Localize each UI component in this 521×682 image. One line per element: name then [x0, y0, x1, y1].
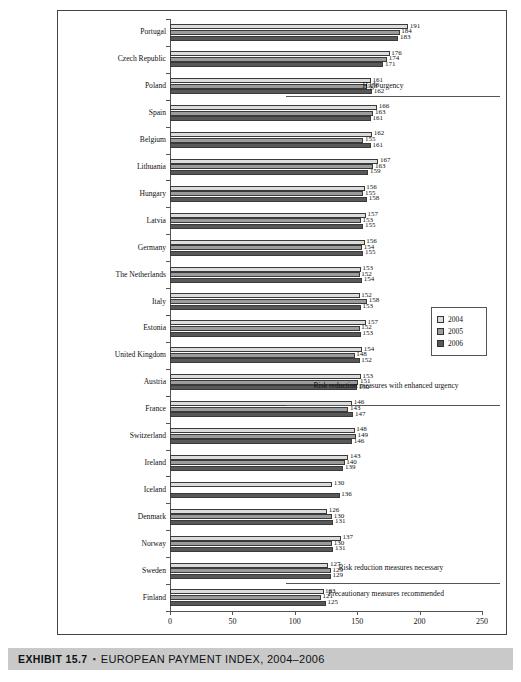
x-axis-tick — [295, 611, 296, 615]
bar-value-label: 161 — [372, 143, 383, 148]
bar-2006 — [170, 251, 363, 256]
bar-2006 — [170, 305, 361, 310]
bar-value-label: 139 — [345, 465, 356, 470]
bar-2006 — [170, 358, 360, 363]
category-label: Portugal — [58, 27, 166, 36]
chart-row: Norway137130131 — [170, 530, 482, 557]
bar-2004 — [170, 428, 355, 433]
bar-2005 — [170, 57, 387, 62]
bar-2006 — [170, 601, 326, 606]
category-label: Sweden — [58, 566, 166, 575]
bar-value-label: 131 — [335, 546, 346, 551]
y-axis-tick — [166, 557, 170, 558]
bar-value-label: 146 — [354, 439, 365, 444]
bar-2005 — [170, 326, 360, 331]
x-axis-tick-label: 0 — [168, 617, 172, 626]
bar-2006 — [170, 520, 333, 525]
bar-value-label: 153 — [362, 331, 373, 336]
chart-row: Denmark126130131 — [170, 503, 482, 530]
category-label: Hungary — [58, 189, 166, 198]
bar-value-label: 158 — [369, 196, 380, 201]
exhibit-number: EXHIBIT 15.7 — [18, 653, 88, 665]
y-axis-tick — [166, 234, 170, 235]
legend-item-2004: 2004 — [437, 315, 482, 324]
bar-2004 — [170, 455, 348, 460]
legend-swatch-icon — [437, 340, 444, 347]
bar-2006 — [170, 197, 367, 202]
y-axis-tick — [166, 288, 170, 289]
y-axis-tick — [166, 423, 170, 424]
category-label: Estonia — [58, 323, 166, 332]
y-axis-tick — [166, 450, 170, 451]
y-axis-tick — [166, 476, 170, 477]
bar-value-label: 147 — [355, 412, 366, 417]
annotation-precautionary: Precautionary measures recommended — [306, 589, 466, 598]
legend-label: 2005 — [448, 327, 463, 336]
chart-row: Ireland143140139 — [170, 450, 482, 477]
category-label: Finland — [58, 593, 166, 602]
category-label: United Kingdom — [58, 350, 166, 359]
annotation-rule-3 — [286, 583, 500, 584]
y-axis-tick — [166, 19, 170, 20]
legend-label: 2004 — [448, 315, 463, 324]
y-axis-tick — [166, 180, 170, 181]
bar-2005 — [170, 514, 332, 519]
bar-2005 — [170, 299, 367, 304]
y-axis-tick — [166, 46, 170, 47]
bar-2006 — [170, 170, 368, 175]
bar-value-label: 136 — [341, 492, 352, 497]
x-axis-tick-label: 250 — [476, 617, 488, 626]
category-label: Ireland — [58, 458, 166, 467]
category-label: Iceland — [58, 485, 166, 494]
x-axis-line — [170, 611, 482, 612]
chart-frame: Portugal191184183Czech Republic176174171… — [57, 10, 507, 635]
legend: 200420052006 — [431, 307, 487, 356]
y-axis-tick — [166, 127, 170, 128]
bar-2006 — [170, 143, 371, 148]
bar-value-label: 131 — [335, 519, 346, 524]
bar-2005 — [170, 460, 345, 465]
annotation-risk-necessary: Risk reduction measures necessary — [306, 563, 476, 572]
bar-2005 — [170, 164, 373, 169]
bar-2004 — [170, 132, 372, 137]
bar-2006 — [170, 547, 333, 552]
x-axis-tick — [482, 611, 483, 615]
bar-2004 — [170, 240, 365, 245]
y-axis-tick — [166, 584, 170, 585]
y-axis-tick — [166, 503, 170, 504]
bar-2006 — [170, 412, 353, 417]
bar-value-label: 137 — [342, 535, 353, 540]
bar-2005 — [170, 434, 356, 439]
x-axis-tick-label: 100 — [289, 617, 301, 626]
bar-2004 — [170, 51, 390, 56]
chart-row: Portugal191184183 — [170, 19, 482, 46]
bar-2004 — [170, 347, 362, 352]
legend-item-2005: 2005 — [437, 327, 482, 336]
chart-row: Spain166163161 — [170, 100, 482, 127]
y-axis-tick — [166, 154, 170, 155]
category-label: Austria — [58, 377, 166, 386]
y-axis-tick — [166, 100, 170, 101]
bar-value-label: 125 — [328, 600, 339, 605]
bar-value-label: 152 — [361, 358, 372, 363]
chart-row: Latvia157153155 — [170, 207, 482, 234]
category-label: Switzerland — [58, 431, 166, 440]
y-axis-tick — [166, 369, 170, 370]
chart-row: Germany156154155 — [170, 234, 482, 261]
bar-2005 — [170, 541, 332, 546]
bar-2004 — [170, 186, 365, 191]
bar-value-label: 155 — [365, 250, 376, 255]
category-label: Poland — [58, 81, 166, 90]
category-label: Latvia — [58, 216, 166, 225]
bar-2006 — [170, 439, 352, 444]
category-label: Germany — [58, 243, 166, 252]
y-axis-tick — [166, 207, 170, 208]
category-label: Czech Republic — [58, 54, 166, 63]
bar-2005 — [170, 407, 348, 412]
x-axis-tick-label: 150 — [351, 617, 363, 626]
annotation-risk-enhanced: Risk reduction measures with enhanced ur… — [306, 381, 466, 390]
chart-row: Hungary156155158 — [170, 180, 482, 207]
bar-2005 — [170, 245, 362, 250]
caption-title: EUROPEAN PAYMENT INDEX, 2004–2006 — [101, 653, 325, 665]
legend-swatch-icon — [437, 316, 444, 323]
